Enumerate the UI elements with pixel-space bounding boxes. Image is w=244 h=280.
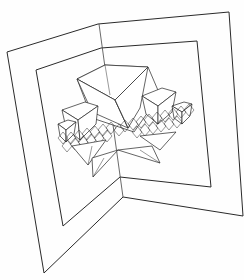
fractal-structure	[58, 65, 194, 177]
outer-frame	[7, 12, 243, 273]
figure-canvas: fractal pop-up card line drawing	[0, 0, 244, 280]
pop-up-card-drawing	[0, 0, 244, 280]
